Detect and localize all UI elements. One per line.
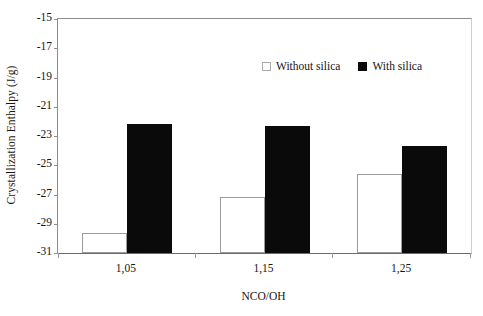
bar-chart: Crystallization Enthalpy (J/g) -15-17-19… (0, 0, 483, 316)
y-axis-tick-label: -29 (11, 217, 57, 229)
legend-label-with-silica: With silica (372, 61, 422, 73)
x-axis-tick-mark (470, 253, 471, 258)
y-axis-tick-label: -27 (11, 188, 57, 200)
x-axis-tick-mark (58, 253, 59, 258)
bar-without-silica-1,25 (357, 174, 402, 253)
legend-entry-with-silica: With silica (358, 61, 422, 73)
y-axis-tick-label: -25 (11, 159, 57, 171)
y-axis-tick-mark (54, 19, 58, 20)
y-axis-tick-label: -21 (11, 100, 57, 112)
x-axis-tick-mark (195, 253, 196, 258)
bar-with-silica-1,05 (127, 124, 172, 253)
bar-without-silica-1,05 (82, 233, 127, 253)
x-axis-title: NCO/OH (57, 290, 470, 302)
bar-with-silica-1,25 (402, 146, 447, 253)
plot-inner (58, 19, 471, 253)
hollow-square-marker-icon (262, 62, 271, 71)
y-axis-tick-label: -23 (11, 129, 57, 141)
x-axis-tick-mark (332, 253, 333, 258)
y-axis-tick-mark (54, 136, 58, 137)
y-axis-tick-labels: -15-17-19-21-23-25-27-29-31 (0, 0, 57, 316)
x-axis-tick-label: 1,25 (361, 262, 441, 274)
y-axis-tick-mark (54, 195, 58, 196)
x-axis-tick-label: 1,05 (86, 262, 166, 274)
plot-area (57, 18, 472, 254)
y-axis-tick-label: -17 (11, 42, 57, 54)
y-axis-tick-mark (54, 107, 58, 108)
y-axis-tick-mark (54, 165, 58, 166)
filled-square-marker-icon (358, 62, 367, 71)
chart-legend: Without silica With silica (262, 61, 422, 73)
y-axis-tick-label: -19 (11, 71, 57, 83)
legend-label-without-silica: Without silica (276, 61, 340, 73)
y-axis-tick-mark (54, 48, 58, 49)
legend-entry-without-silica: Without silica (262, 61, 340, 73)
y-axis-tick-mark (54, 78, 58, 79)
x-axis-tick-label: 1,15 (224, 262, 304, 274)
y-axis-tick-mark (54, 224, 58, 225)
bar-without-silica-1,15 (220, 197, 265, 253)
bar-with-silica-1,15 (265, 126, 310, 253)
y-axis-tick-label: -15 (11, 12, 57, 24)
y-axis-tick-label: -31 (11, 246, 57, 258)
